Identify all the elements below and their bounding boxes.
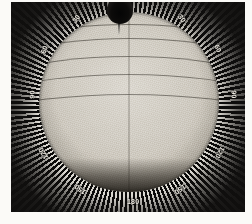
border-right [245, 0, 252, 224]
border-bottom [0, 212, 252, 224]
photographic-plate: 306090120150180150120906030 [0, 0, 252, 224]
border-top [0, 0, 252, 2]
sunspot-tail-icon [118, 19, 120, 35]
plate-fog-band [39, 158, 219, 192]
border-left [0, 0, 11, 224]
plate-exposed-area: 306090120150180150120906030 [11, 2, 245, 212]
scale-label: 180 [127, 198, 139, 205]
solar-disk [39, 12, 219, 192]
scale-label: 90 [28, 90, 35, 98]
scale-label: 90 [230, 90, 237, 98]
